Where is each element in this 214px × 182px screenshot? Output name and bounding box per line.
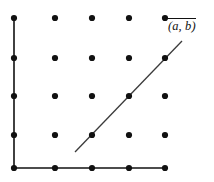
lattice-point <box>126 55 132 61</box>
lattice-figure: (a, b) <box>0 0 214 182</box>
lattice-point <box>126 15 132 21</box>
lattice-point <box>52 55 58 61</box>
lattice-point <box>126 132 132 138</box>
lattice-point <box>162 132 168 138</box>
lattice-point <box>52 165 58 171</box>
lattice-point <box>162 93 168 99</box>
ray-label: (a, b) <box>168 18 196 33</box>
lattice-point-on-ray <box>89 132 95 138</box>
lattice-point <box>52 132 58 138</box>
lattice-point <box>11 15 17 21</box>
lattice-point <box>89 55 95 61</box>
lattice-point <box>11 55 17 61</box>
ray-label-text: (a, b) <box>168 18 196 33</box>
lattice-point-on-ray <box>126 93 132 99</box>
lattice-point <box>11 165 17 171</box>
lattice-point <box>52 15 58 21</box>
lattice-point <box>11 132 17 138</box>
lattice-point <box>52 93 58 99</box>
lattice-point <box>89 15 95 21</box>
lattice-point <box>89 93 95 99</box>
lattice-point-on-ray <box>162 55 168 61</box>
lattice-point <box>89 165 95 171</box>
lattice-point <box>11 93 17 99</box>
lattice-point <box>162 165 168 171</box>
lattice-point <box>126 165 132 171</box>
